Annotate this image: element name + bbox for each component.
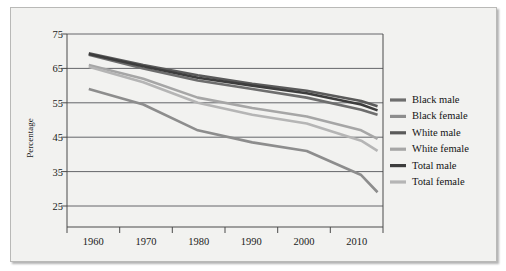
legend-label-total-male: Total male: [412, 160, 457, 171]
x-tick-label: 1980: [188, 236, 209, 247]
x-tick-label: 2010: [346, 236, 367, 247]
line-chart-svg: Percentage 75 65 55 45 35 25: [11, 8, 498, 263]
x-tick-label: 1960: [83, 236, 104, 247]
x-tick-label: 1970: [136, 236, 157, 247]
y-axis-tickmarks: [61, 34, 67, 206]
legend-label-black-female: Black female: [412, 110, 468, 121]
y-axis-tick-labels: 75 65 55 45 35 25: [53, 29, 64, 212]
legend-label-black-male: Black male: [412, 94, 460, 105]
x-tick-label: 2000: [294, 236, 315, 247]
figure-panel: Percentage 75 65 55 45 35 25: [10, 7, 497, 262]
x-axis-tickmarks: [67, 227, 383, 233]
y-axis-title: Percentage: [25, 118, 35, 157]
chart-canvas: Percentage 75 65 55 45 35 25: [11, 8, 496, 261]
plot-frame: [67, 34, 383, 227]
x-axis-tick-labels: 1960 1970 1980 1990 2000 2010: [83, 236, 367, 247]
legend-label-white-female: White female: [412, 143, 469, 154]
legend-label-white-male: White male: [412, 127, 461, 138]
x-tick-label: 1990: [241, 236, 262, 247]
chart-legend: Black maleBlack femaleWhite maleWhite fe…: [390, 94, 469, 187]
legend-label-total-female: Total female: [412, 176, 465, 187]
